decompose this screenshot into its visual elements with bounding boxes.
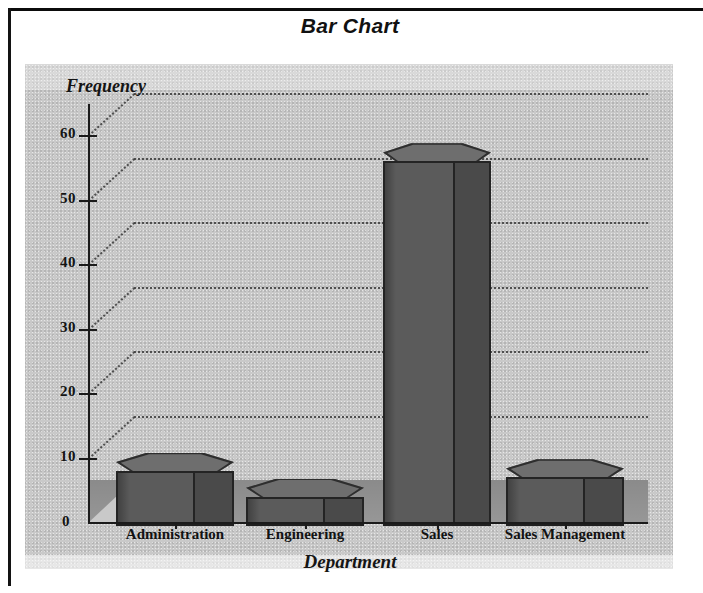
- bar-front-shade: [248, 499, 260, 524]
- x-axis-tick: [305, 522, 307, 529]
- bar-edge-seam: [193, 471, 195, 526]
- y-axis-tick-label: 50: [36, 190, 76, 207]
- y-axis-tick: [79, 200, 97, 202]
- frame-border-top: [8, 8, 703, 11]
- bar[interactable]: [246, 479, 364, 526]
- x-axis-tick: [437, 522, 439, 529]
- bar[interactable]: [506, 459, 624, 526]
- bar-side-face: [453, 161, 491, 526]
- bar-front-shade: [385, 163, 396, 524]
- y-axis-tick-label: 10: [36, 448, 76, 465]
- x-axis-tick: [565, 522, 567, 529]
- y-axis-tick: [79, 329, 97, 331]
- y-axis-tick-label: 30: [36, 319, 76, 336]
- y-axis-tick-label: 20: [36, 383, 76, 400]
- y-axis-line: [88, 104, 90, 524]
- y-axis-tick: [79, 393, 97, 395]
- y-axis-tick: [79, 458, 97, 460]
- y-axis-tick: [79, 135, 97, 137]
- bar-side-face: [193, 471, 234, 526]
- frame-border-left: [8, 8, 11, 586]
- y-axis-tick: [79, 264, 97, 266]
- chart-title: Bar Chart: [0, 14, 700, 38]
- x-axis-tick: [175, 522, 177, 529]
- chart-page: Bar Chart 102030405060 0 Frequency Depar…: [0, 0, 703, 593]
- bar-edge-seam: [583, 477, 585, 526]
- bar-front-shade: [118, 473, 130, 524]
- y-axis-tick-label: 40: [36, 254, 76, 271]
- bar[interactable]: [383, 143, 491, 526]
- bar-side-face: [583, 477, 624, 526]
- y-axis-title: Frequency: [66, 76, 146, 97]
- y-axis-tick-label: 60: [36, 125, 76, 142]
- gridline: [134, 93, 648, 95]
- bar-edge-seam: [453, 161, 455, 526]
- x-axis-line: [88, 522, 648, 524]
- bar[interactable]: [116, 453, 234, 526]
- x-axis-title: Department: [0, 551, 700, 573]
- bar-front-shade: [508, 479, 520, 524]
